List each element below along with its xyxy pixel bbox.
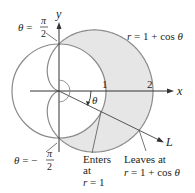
x-axis-arrow-icon (167, 89, 174, 94)
y-axis-arrow-icon (57, 22, 62, 29)
x-axis-label: x (176, 84, 183, 98)
y-axis-label: y (55, 7, 62, 21)
svg-text:at: at (83, 164, 91, 176)
svg-text:2: 2 (47, 161, 52, 172)
ray-l-label: L (165, 135, 173, 149)
tick-label-1: 1 (102, 78, 108, 90)
svg-text:r = 1: r = 1 (83, 176, 105, 188)
svg-text:π: π (47, 148, 53, 159)
svg-text:π: π (41, 15, 47, 26)
cardioid-equation: r = 1 + cos θ (127, 30, 184, 42)
label-theta-pi-over-2: θ = π 2 (18, 15, 48, 39)
svg-text:2: 2 (41, 28, 46, 39)
label-theta-neg-pi-over-2: θ = − π 2 (14, 148, 54, 172)
leaves-annotation: Leaves at r = 1 + cos θ (124, 153, 181, 178)
enters-annotation: Enters at r = 1 (83, 153, 111, 188)
polar-area-diagram: y x 1 2 r = 1 + cos θ θ = π 2 θ = − π 2 … (0, 0, 195, 193)
svg-text:Leaves at: Leaves at (124, 153, 166, 165)
svg-text:θ =: θ = (18, 21, 32, 33)
svg-text:θ = −: θ = − (14, 154, 37, 166)
ray-angle-label: θ (92, 94, 98, 106)
tick-label-2: 2 (147, 78, 153, 90)
svg-text:r = 1 + cos θ: r = 1 + cos θ (124, 166, 181, 178)
ray-l-arrow-icon (157, 137, 165, 143)
top-label-leader (46, 33, 57, 41)
